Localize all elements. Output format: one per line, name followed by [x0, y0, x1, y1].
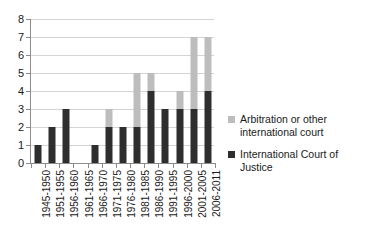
x-axis-tick: [88, 164, 89, 168]
bar-segment-arbitration: [134, 73, 141, 127]
bar-segment-icj: [91, 145, 98, 163]
bars-layer: [31, 19, 215, 163]
bar-stack[interactable]: [119, 127, 126, 163]
y-axis-tick-label: 4: [2, 86, 24, 97]
bar-slot: [31, 19, 45, 163]
bar-slot: [88, 19, 102, 163]
bar-segment-arbitration: [105, 109, 112, 127]
y-axis-tick-label: 8: [2, 14, 24, 25]
x-axis-tick-label: 2006-2011: [212, 170, 222, 217]
bar-stack[interactable]: [134, 73, 141, 163]
bar-slot: [116, 19, 130, 163]
bar-segment-icj: [176, 109, 183, 163]
stacked-bar-chart: 876543210 1945-19501951-19551956-1960196…: [0, 0, 382, 242]
x-axis-tick: [59, 164, 60, 168]
bar-slot: [102, 19, 116, 163]
x-axis-tick-label: 1966-1970: [99, 170, 109, 218]
y-axis-tick: [26, 145, 30, 146]
bar-stack[interactable]: [176, 91, 183, 163]
x-axis-tick: [201, 164, 202, 168]
y-axis-tick-label: 7: [2, 32, 24, 43]
bar-segment-icj: [105, 127, 112, 163]
bar-segment-icj: [134, 127, 141, 163]
legend-item-label: Arbitration or other international court: [240, 113, 368, 139]
bar-slot: [144, 19, 158, 163]
y-axis-tick-label: 1: [2, 140, 24, 151]
x-axis-tick-label: 1951-1955: [56, 170, 66, 218]
bar-slot: [45, 19, 59, 163]
x-axis-tick-label: 1991-1995: [169, 170, 179, 218]
x-axis-tick-label: 2001-2005: [198, 170, 208, 218]
y-axis-tick: [26, 19, 30, 20]
y-axis-tick: [26, 37, 30, 38]
x-axis-tick: [45, 164, 46, 168]
bar-stack[interactable]: [190, 37, 197, 163]
bar-segment-icj: [190, 109, 197, 163]
legend-item[interactable]: International Court of Justice: [228, 148, 378, 174]
legend-swatch-icon: [228, 151, 235, 158]
y-axis-labels: 876543210: [0, 0, 24, 242]
bar-slot: [158, 19, 172, 163]
bar-stack[interactable]: [162, 109, 169, 163]
bar-segment-icj: [49, 127, 56, 163]
y-axis-tick-label: 3: [2, 104, 24, 115]
legend-item-label: International Court of Justice: [240, 148, 368, 174]
y-axis-tick: [26, 55, 30, 56]
x-axis-tick-label: 1981-1985: [141, 170, 151, 218]
bar-segment-icj: [148, 91, 155, 163]
x-axis-tick: [144, 164, 145, 168]
legend-swatch-icon: [228, 116, 235, 123]
bar-segment-icj: [119, 127, 126, 163]
y-axis-tick: [26, 91, 30, 92]
bar-segment-arbitration: [204, 37, 211, 91]
bar-stack[interactable]: [105, 109, 112, 163]
legend-item[interactable]: Arbitration or other international court: [228, 113, 378, 139]
bar-slot: [59, 19, 73, 163]
bar-slot: [187, 19, 201, 163]
x-axis-tick-label: 1956-1960: [70, 170, 80, 218]
bar-stack[interactable]: [91, 145, 98, 163]
bar-segment-icj: [162, 109, 169, 163]
chart-legend: Arbitration or other international court…: [228, 113, 378, 184]
bar-segment-arbitration: [190, 37, 197, 109]
x-axis-tick-label: 1971-1975: [113, 170, 123, 218]
bar-segment-arbitration: [148, 73, 155, 91]
y-axis-tick: [26, 109, 30, 110]
y-axis-tick: [26, 73, 30, 74]
x-axis-tick: [116, 164, 117, 168]
y-axis-tick-label: 2: [2, 122, 24, 133]
bar-stack[interactable]: [49, 127, 56, 163]
bar-slot: [201, 19, 215, 163]
bar-slot: [173, 19, 187, 163]
x-axis-labels: 1945-19501951-19551956-19601961-19651966…: [31, 170, 215, 242]
bar-slot: [73, 19, 87, 163]
x-axis-tick-label: 1945-1950: [42, 170, 52, 218]
bar-segment-arbitration: [176, 91, 183, 109]
y-axis-tick-label: 0: [2, 158, 24, 169]
x-axis-line: [30, 163, 216, 164]
bar-stack[interactable]: [35, 145, 42, 163]
x-axis-tick: [187, 164, 188, 168]
y-axis-tick-label: 5: [2, 68, 24, 79]
x-axis-tick: [215, 164, 216, 168]
bar-segment-icj: [35, 145, 42, 163]
x-axis-tick: [173, 164, 174, 168]
x-axis-tick-label: 1986-1990: [155, 170, 165, 218]
bar-slot: [130, 19, 144, 163]
x-axis-tick-label: 1961-1965: [85, 170, 95, 218]
x-axis-tick: [158, 164, 159, 168]
x-axis-tick-label: 1996-2000: [184, 170, 194, 218]
bar-stack[interactable]: [148, 73, 155, 163]
x-axis-tick: [31, 164, 32, 168]
bar-stack[interactable]: [204, 37, 211, 163]
bar-segment-icj: [204, 91, 211, 163]
x-axis-tick: [130, 164, 131, 168]
bar-segment-icj: [63, 109, 70, 163]
x-axis-tick: [102, 164, 103, 168]
x-axis-tick-label: 1976-1980: [127, 170, 137, 218]
y-axis-tick-label: 6: [2, 50, 24, 61]
y-axis-tick: [26, 127, 30, 128]
bar-stack[interactable]: [63, 109, 70, 163]
x-axis-tick: [73, 164, 74, 168]
